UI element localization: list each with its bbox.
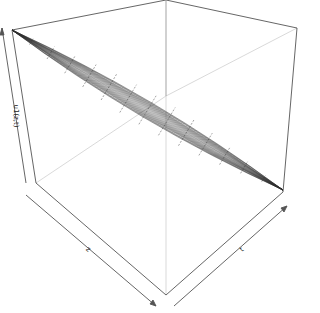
box-front-edges [12,0,297,295]
surface-mesh [12,30,283,190]
surface-plot: u1(z,t) z t [0,0,320,313]
x-axis-label-z: z [84,245,92,254]
z-axis-label-u1: u1(z,t) [12,105,20,128]
